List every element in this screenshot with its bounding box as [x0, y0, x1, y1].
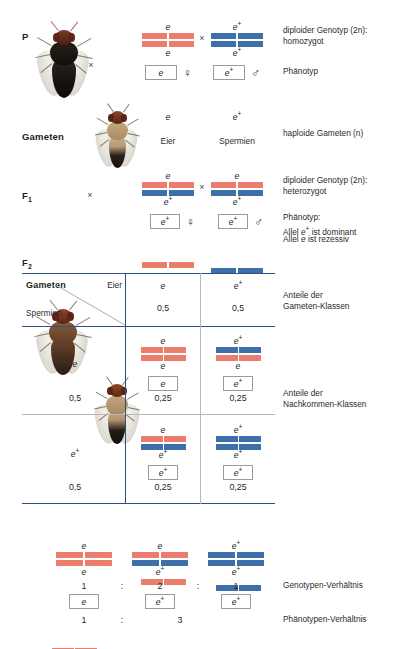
- gameten-label: Gameten: [22, 131, 64, 142]
- allele-text: e+: [233, 112, 242, 122]
- f1-dominance-line-2: Allel e ist rezessiv: [283, 234, 401, 245]
- allele-text: e: [161, 281, 166, 291]
- punnett-row-1-fraction: 0,5: [30, 482, 120, 492]
- phenotype-box: e+: [150, 214, 180, 229]
- allele-text: e+: [164, 197, 173, 207]
- allele-text: e+: [71, 449, 80, 459]
- chromosome-bar: [56, 552, 112, 558]
- punnett-cell-1-0-fraction: 0,25: [128, 482, 198, 492]
- summary-class-2-chromosome-pair: [208, 552, 264, 566]
- chromosome-bar: [211, 33, 263, 39]
- f1-phenotype-note: Phänotyp:: [283, 212, 401, 223]
- punnett-bottom-border: [22, 503, 275, 504]
- f1-mother-phenotype: e+ ♀: [150, 214, 195, 229]
- summary-class-2-bottom-allele: e+: [208, 567, 264, 577]
- allele-text: e+: [156, 567, 165, 577]
- punnett-cell-1-1-bottom-allele: e+: [203, 450, 273, 460]
- phenotype-allele: e+: [225, 68, 234, 78]
- summary-colon-genotype-2: :: [188, 581, 208, 591]
- allele-text: e+: [232, 541, 241, 551]
- p-genotype-note: diploider Genotyp (2n): homozygot: [283, 25, 401, 47]
- summary-class-1-phenotype-count: 3: [152, 615, 208, 625]
- chromosome-bar: [141, 355, 186, 361]
- chromosome-bar: [141, 347, 186, 353]
- punnett-cell-0-1-fraction: 0,25: [203, 393, 273, 403]
- summary-class-0-phenotype-count: 1: [56, 615, 112, 625]
- gameten-egg-allele: e: [142, 112, 194, 122]
- chromosome-bar: [142, 41, 194, 47]
- gameten-note: haploide Gameten (n): [283, 128, 401, 139]
- allele-text: e: [236, 361, 241, 371]
- allele-text: e+: [233, 197, 242, 207]
- cross-symbol-f1: ×: [85, 190, 95, 200]
- allele-text: e+: [234, 336, 243, 346]
- punnett-row-divider: [22, 414, 275, 415]
- allele-text: e: [166, 112, 171, 122]
- fly-photo-p-female: [36, 24, 92, 98]
- punnett-cell-0-1-phenotype-box: e+: [223, 376, 253, 391]
- summary-colon-genotype-1: :: [112, 581, 132, 591]
- summary-class-1-phenotype-box: e+: [145, 594, 175, 609]
- punnett-cell-0-1-top-allele: e+: [203, 336, 273, 346]
- f1-genotype-note: diploider Genotyp (2n): heterozygot: [283, 175, 401, 197]
- genotype-ratio-label: Genotypen-Verhältnis: [283, 580, 401, 591]
- gameten-sperm-caption: Spermien: [211, 136, 263, 146]
- allele-text: e: [166, 171, 171, 181]
- punnett-col-0-allele: e: [128, 281, 198, 291]
- f1-mother-bottom-allele: e+: [142, 197, 194, 207]
- summary-class-2-top-allele: e+: [208, 541, 264, 551]
- p-father-phenotype: e+ ♂: [213, 65, 260, 80]
- punnett-col-0-fraction: 0,5: [128, 303, 198, 313]
- cross-symbol-p-genotype: ×: [196, 33, 208, 43]
- cross-symbol-f1-genotype: ×: [196, 182, 208, 192]
- punnett-cell-0-0-chromosome-pair: [141, 347, 186, 361]
- p-mother-phenotype: e ♀: [145, 65, 192, 80]
- p-mother-bottom-allele: e: [142, 48, 194, 58]
- allele-text: e+: [234, 425, 243, 435]
- chromosome-bar: [208, 552, 264, 558]
- summary-class-2-phenotype-box: e+: [221, 594, 251, 609]
- allele-text: e: [161, 336, 166, 346]
- punnett-cell-0-0-bottom-allele: e: [128, 361, 198, 371]
- punnett-column-divider: [200, 273, 201, 504]
- punnett-cell-1-0-top-allele: e: [128, 425, 198, 435]
- f1-mother-chromosome-pair: [142, 182, 194, 196]
- phenotype-allele: e+: [161, 217, 170, 227]
- punnett-col-1-allele: e+: [203, 281, 273, 291]
- summary-class-0-chromosome-pair: [56, 552, 112, 566]
- summary-class-1-genotype-count: 2: [132, 581, 188, 591]
- f1-mother-top-allele: e: [142, 171, 194, 181]
- summary-class-1-top-allele: e: [132, 541, 188, 551]
- phenotype-allele: e+: [234, 468, 243, 478]
- f1-father-top-allele: e: [211, 171, 263, 181]
- allele-text: e+: [234, 281, 243, 291]
- chromosome-bar: [216, 355, 261, 361]
- fly-photo-p-male: [96, 107, 138, 169]
- allele-text: e: [158, 541, 163, 551]
- f1-father-phenotype: e+ ♂: [218, 214, 263, 229]
- punnett-cell-1-1-top-allele: e+: [203, 425, 273, 435]
- phenotype-box: e+: [213, 65, 245, 80]
- phenotype-allele: e+: [229, 217, 238, 227]
- p-mother-top-allele: e: [142, 22, 194, 32]
- chromosome-bar: [142, 182, 194, 188]
- phenotype-allele: e+: [232, 597, 241, 607]
- chromosome-bar: [211, 182, 263, 188]
- chromosome-bar: [142, 33, 194, 39]
- allele-text: e: [73, 359, 78, 369]
- male-symbol-icon: ♂: [251, 67, 260, 79]
- phenotype-allele: e: [159, 68, 164, 78]
- allele-text: e+: [159, 450, 168, 460]
- allele-text: e: [166, 22, 171, 32]
- phenotype-allele: e+: [234, 379, 243, 389]
- f2-subscript: 2: [28, 263, 32, 270]
- summary-class-0-top-allele: e: [56, 541, 112, 551]
- male-symbol-icon: ♂: [254, 216, 263, 228]
- female-symbol-icon: ♀: [186, 216, 195, 228]
- phenotype-allele: e: [161, 379, 166, 389]
- p-mother-chromosome-pair: [142, 33, 194, 47]
- p-father-bottom-allele: e+: [211, 48, 263, 58]
- allele-text: e+: [234, 450, 243, 460]
- punnett-cell-1-0-bottom-allele: e+: [128, 450, 198, 460]
- punnett-cell-0-1-bottom-allele: e: [203, 361, 273, 371]
